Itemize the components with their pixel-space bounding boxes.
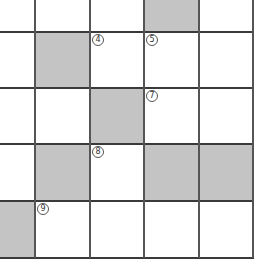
grid-cell-7[interactable]: 7 <box>144 88 199 144</box>
grid-line <box>198 0 200 258</box>
grid-cell-4[interactable]: 4 <box>90 32 144 88</box>
grid-line <box>143 0 145 258</box>
grid-line <box>0 200 254 202</box>
grid-cell-8[interactable]: 8 <box>90 144 144 201</box>
grid-cell[interactable] <box>144 201 199 258</box>
grid-cell[interactable] <box>199 201 253 258</box>
block-cell <box>0 201 35 258</box>
grid-cell[interactable] <box>199 0 253 32</box>
grid-line <box>252 0 254 258</box>
grid-line <box>0 31 254 33</box>
clue-number-7: 7 <box>146 90 158 102</box>
grid-cell[interactable] <box>0 32 35 88</box>
crossword-grid: 4 5 7 8 9 <box>0 0 273 269</box>
grid-cell[interactable] <box>0 88 35 144</box>
grid-cell[interactable] <box>0 144 35 201</box>
grid-cell-9[interactable]: 9 <box>35 201 90 258</box>
clue-number-9: 9 <box>37 203 49 215</box>
grid-cell-5[interactable]: 5 <box>144 32 199 88</box>
grid-cell[interactable] <box>90 201 144 258</box>
grid-cell[interactable] <box>90 0 144 32</box>
block-cell <box>199 144 253 201</box>
grid-line <box>0 143 254 145</box>
grid-cell[interactable] <box>0 0 35 32</box>
clue-number-5: 5 <box>146 34 158 46</box>
grid-line <box>89 0 91 258</box>
grid-cell[interactable] <box>199 32 253 88</box>
grid-line <box>34 0 36 258</box>
grid-cell[interactable] <box>35 0 90 32</box>
grid-cell[interactable] <box>35 88 90 144</box>
block-cell <box>144 0 199 32</box>
grid-line <box>0 87 254 89</box>
block-cell <box>90 88 144 144</box>
block-cell <box>144 144 199 201</box>
grid-line <box>0 257 254 259</box>
clue-number-4: 4 <box>92 34 104 46</box>
grid-cell[interactable] <box>199 88 253 144</box>
block-cell <box>35 32 90 88</box>
clue-number-8: 8 <box>92 146 104 158</box>
block-cell <box>35 144 90 201</box>
